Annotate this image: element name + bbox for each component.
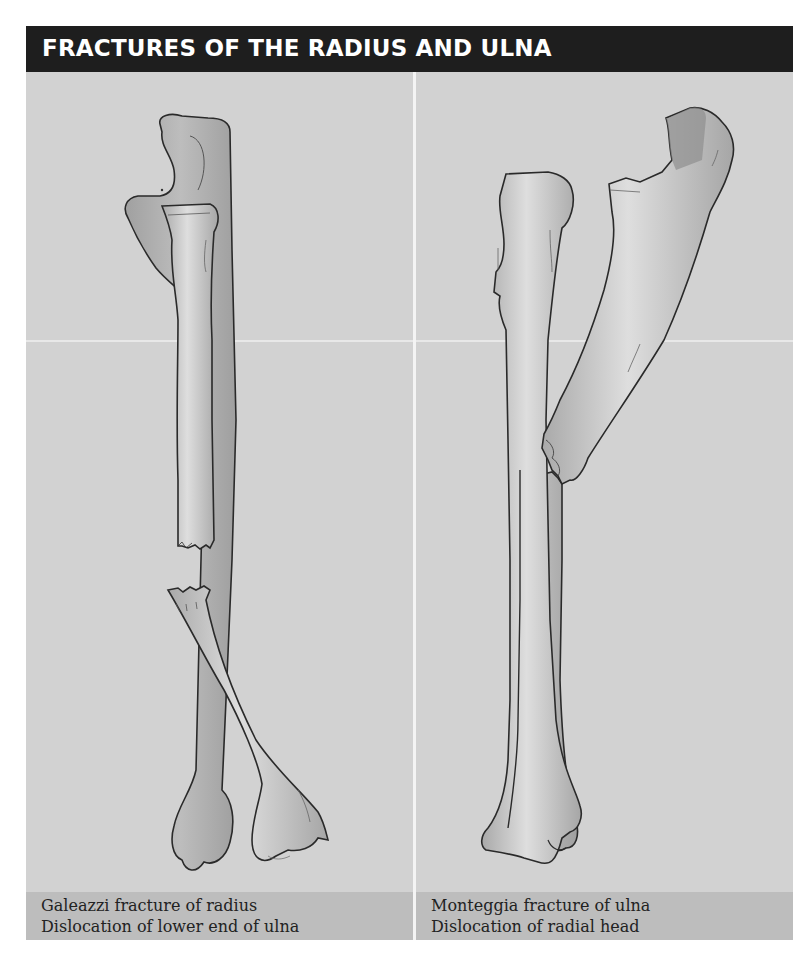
radius-dislocated-right: [482, 172, 582, 863]
bone-illustrations: [0, 0, 807, 963]
ulna-upper-fragment-right: [542, 108, 734, 484]
monteggia-illustration: [482, 107, 734, 863]
galeazzi-illustration: [125, 114, 328, 870]
